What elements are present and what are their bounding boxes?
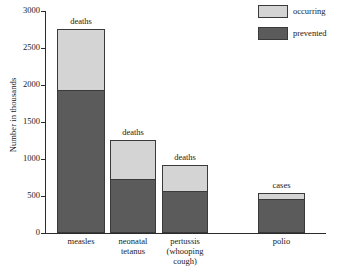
x-axis-line: [45, 233, 326, 234]
bar-segment-prevented: [259, 200, 304, 232]
x-category-label: polio: [245, 236, 318, 246]
y-tick-mark: [41, 85, 46, 86]
bar-segment-prevented: [163, 192, 207, 232]
y-tick-label: 2000: [23, 80, 40, 89]
legend-label-occurring: occurring: [293, 6, 326, 17]
y-tick-label: 2500: [23, 43, 40, 52]
bar-segment-occurring: [163, 166, 207, 191]
bar-measles: [57, 29, 105, 233]
y-tick-label: 1000: [23, 154, 40, 163]
legend-swatch-prevented: [258, 27, 288, 40]
bar-annotation: cases: [258, 181, 305, 190]
bar-segment-occurring: [111, 141, 155, 179]
y-tick-label: 3000: [23, 6, 40, 15]
bar-segment-prevented: [58, 91, 104, 232]
y-tick-mark: [41, 159, 46, 160]
y-tick-mark: [41, 122, 46, 123]
bar-neonatal: [110, 140, 156, 233]
x-category-label: pertussis (whooping cough): [149, 236, 221, 266]
y-tick-mark: [41, 48, 46, 49]
y-tick-label: 1500: [23, 117, 40, 126]
y-tick-mark: [41, 11, 46, 12]
legend-label-prevented: prevented: [293, 28, 327, 39]
y-axis-title: Number in thousands: [8, 40, 18, 190]
y-tick-label: 0: [36, 228, 40, 237]
bar-chart: Number in thousands 05001000150020002500…: [0, 0, 339, 274]
bar-annotation: deaths: [57, 17, 105, 26]
y-tick-mark: [41, 196, 46, 197]
bar-polio: [258, 193, 305, 233]
legend-swatch-occurring: [258, 5, 288, 18]
y-tick-label: 500: [27, 191, 40, 200]
bar-segment-occurring: [58, 30, 104, 91]
bar-pertussis: [162, 165, 208, 233]
bar-annotation: deaths: [162, 153, 208, 162]
bar-annotation: deaths: [110, 128, 156, 137]
bar-segment-prevented: [111, 180, 155, 232]
